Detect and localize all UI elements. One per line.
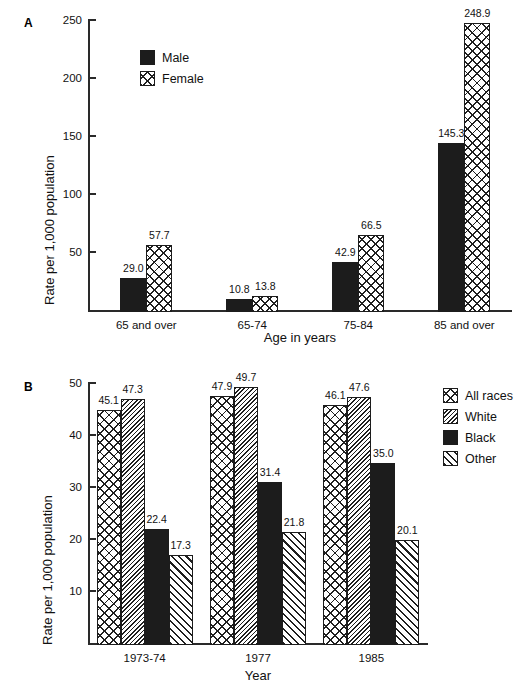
bar-value-label: 145.3 xyxy=(438,127,464,139)
legend-item-black: Black xyxy=(443,430,513,445)
legend-item-all-races: All races xyxy=(443,388,513,403)
bar-male-85-and-over xyxy=(438,143,464,312)
bar-black-1973-74 xyxy=(145,529,169,645)
x-category-label: 1985 xyxy=(311,652,431,664)
bar-all-races-1985 xyxy=(323,405,347,645)
panel-b-y-axis-label: Rate per 1,000 population xyxy=(40,495,55,645)
bar-white-1985 xyxy=(347,397,371,645)
y-tick xyxy=(88,486,96,488)
bar-value-label: 20.1 xyxy=(397,524,417,536)
x-category-label: 85 and over xyxy=(404,319,524,331)
legend-swatch-icon xyxy=(443,388,458,403)
y-tick xyxy=(88,590,96,592)
legend-item-male: Male xyxy=(140,50,204,65)
bar-other-1973-74 xyxy=(169,555,193,645)
y-tick xyxy=(88,251,96,253)
bar-value-label: 46.1 xyxy=(325,389,345,401)
y-tick-label: 100 xyxy=(42,188,82,200)
panel-a: A Rate per 1,000 population Age in years… xyxy=(0,0,527,350)
bar-value-label: 45.1 xyxy=(98,394,118,406)
bar-value-label: 31.4 xyxy=(260,466,280,478)
y-tick-label: 250 xyxy=(42,14,82,26)
bar-male-65-74 xyxy=(226,299,252,312)
legend-label: Other xyxy=(465,452,496,466)
bar-value-label: 42.9 xyxy=(335,246,355,258)
y-tick xyxy=(88,77,96,79)
bar-value-label: 47.9 xyxy=(212,380,232,392)
legend-label: Black xyxy=(465,431,496,445)
bar-other-1977 xyxy=(282,532,306,645)
bar-value-label: 57.7 xyxy=(149,229,169,241)
bar-male-75-84 xyxy=(332,262,358,312)
bar-value-label: 49.7 xyxy=(236,371,256,383)
panel-a-letter: A xyxy=(24,16,33,30)
legend-item-female: Female xyxy=(140,71,204,86)
bar-white-1977 xyxy=(234,387,258,645)
legend-swatch-icon xyxy=(140,50,155,65)
bar-value-label: 47.6 xyxy=(349,381,369,393)
legend-swatch-icon xyxy=(443,409,458,424)
bar-other-1985 xyxy=(395,540,419,645)
bar-female-65-and-over xyxy=(146,245,172,312)
bar-black-1977 xyxy=(258,482,282,645)
panel-b: B Rate per 1,000 population Year All rac… xyxy=(0,350,527,683)
bar-male-65-and-over xyxy=(120,278,146,312)
bar-female-85-and-over xyxy=(464,23,490,312)
y-tick xyxy=(88,19,96,21)
y-tick xyxy=(88,434,96,436)
y-tick xyxy=(88,382,96,384)
y-tick xyxy=(88,135,96,137)
bar-value-label: 47.3 xyxy=(122,383,142,395)
bar-black-1985 xyxy=(371,463,395,645)
x-category-label: 1977 xyxy=(198,652,318,664)
panel-a-y-axis-label: Rate per 1,000 population xyxy=(42,155,57,305)
y-tick-label: 10 xyxy=(42,585,82,597)
legend-label: White xyxy=(465,410,497,424)
bar-white-1973-74 xyxy=(121,399,145,645)
panel-a-x-axis-label: Age in years xyxy=(88,330,512,345)
legend-item-other: Other xyxy=(443,451,513,466)
legend-label: All races xyxy=(465,389,513,403)
y-tick xyxy=(88,193,96,195)
y-tick-label: 50 xyxy=(42,246,82,258)
y-tick-label: 30 xyxy=(42,481,82,493)
bar-value-label: 10.8 xyxy=(229,283,249,295)
bar-value-label: 248.9 xyxy=(464,7,490,19)
bar-value-label: 17.3 xyxy=(170,539,190,551)
x-category-label: 65 and over xyxy=(86,319,206,331)
panel-b-legend: All racesWhiteBlackOther xyxy=(443,388,513,472)
y-tick-label: 50 xyxy=(42,377,82,389)
x-category-label: 75-84 xyxy=(298,319,418,331)
x-category-label: 1973-74 xyxy=(85,652,205,664)
y-tick-label: 40 xyxy=(42,429,82,441)
legend-label: Male xyxy=(162,51,189,65)
legend-swatch-icon xyxy=(443,430,458,445)
panel-b-y-axis xyxy=(88,383,90,643)
panel-b-plot-area xyxy=(88,383,428,645)
bar-value-label: 13.8 xyxy=(255,280,275,292)
panel-a-y-axis xyxy=(88,20,90,310)
bar-all-races-1977 xyxy=(210,396,234,645)
y-tick xyxy=(88,538,96,540)
bar-value-label: 66.5 xyxy=(361,219,381,231)
legend-swatch-icon xyxy=(443,451,458,466)
legend-item-white: White xyxy=(443,409,513,424)
bar-female-75-84 xyxy=(358,235,384,312)
bar-all-races-1973-74 xyxy=(97,410,121,645)
x-category-label: 65-74 xyxy=(192,319,312,331)
panel-a-legend: MaleFemale xyxy=(140,50,204,92)
bar-value-label: 22.4 xyxy=(146,513,166,525)
bar-value-label: 29.0 xyxy=(123,262,143,274)
y-tick-label: 20 xyxy=(42,533,82,545)
bar-female-65-74 xyxy=(252,296,278,312)
y-tick-label: 200 xyxy=(42,72,82,84)
panel-b-x-axis-label: Year xyxy=(88,668,428,683)
bar-value-label: 21.8 xyxy=(284,516,304,528)
legend-swatch-icon xyxy=(140,71,155,86)
panel-b-letter: B xyxy=(24,380,33,394)
y-tick-label: 150 xyxy=(42,130,82,142)
legend-label: Female xyxy=(162,72,204,86)
bar-value-label: 35.0 xyxy=(373,447,393,459)
